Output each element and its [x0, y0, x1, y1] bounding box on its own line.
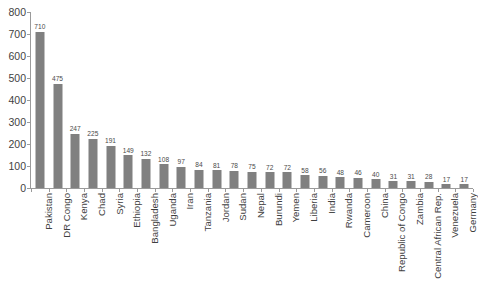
x-axis-tick-mark: [332, 189, 333, 192]
bar[interactable]: [283, 172, 292, 188]
x-axis-tick-mark: [243, 189, 244, 192]
bar-slot: 149: [119, 12, 137, 188]
x-axis-tick-mark: [455, 189, 456, 192]
x-axis-tick-mark: [31, 189, 32, 192]
y-axis-tick-mark: [27, 56, 30, 57]
bar-value-label: 31: [407, 173, 414, 180]
bar-value-label: 84: [195, 161, 202, 168]
x-axis-tick-mark: [49, 189, 50, 192]
x-axis-category-label: Bangladesh: [150, 193, 160, 244]
x-axis-category-label: China: [380, 193, 390, 218]
x-axis-tick-mark: [172, 189, 173, 192]
x-axis-tick-mark: [473, 189, 474, 192]
bar[interactable]: [177, 167, 186, 188]
y-axis-tick-mark: [27, 78, 30, 79]
y-axis-tick-label: 600: [0, 51, 26, 61]
bar-value-label: 191: [105, 137, 116, 144]
y-axis-tick-mark: [27, 34, 30, 35]
bar[interactable]: [265, 172, 274, 188]
bar[interactable]: [389, 181, 398, 188]
bar-value-label: 46: [354, 169, 361, 176]
x-axis-category-label: Burundi: [274, 193, 284, 226]
x-axis-tick-mark: [66, 189, 67, 192]
x-axis-category-label: Central African Rep.: [433, 193, 443, 279]
bar[interactable]: [247, 172, 256, 189]
bar-value-label: 710: [34, 23, 45, 30]
bar[interactable]: [124, 155, 133, 188]
bar-value-label: 225: [87, 130, 98, 137]
bar-value-label: 58: [301, 167, 308, 174]
bar-slot: 46: [349, 12, 367, 188]
bar[interactable]: [141, 159, 150, 188]
bar[interactable]: [371, 179, 380, 188]
x-axis-category-label: Pakistan: [44, 193, 54, 230]
x-axis-category-label: Republic of Congo: [397, 193, 407, 272]
bar-slot: 191: [102, 12, 120, 188]
bar-value-label: 48: [337, 169, 344, 176]
bar[interactable]: [318, 176, 327, 188]
bar[interactable]: [106, 146, 115, 188]
bar[interactable]: [53, 84, 62, 189]
bar[interactable]: [159, 164, 168, 188]
y-axis-tick-label: 700: [0, 29, 26, 39]
x-axis-category-label: Iran: [185, 193, 195, 210]
y-axis-tick-label: 200: [0, 139, 26, 149]
bar-slot: 132: [137, 12, 155, 188]
bar-value-label: 28: [425, 173, 432, 180]
y-axis-tick-label: 0: [0, 183, 26, 193]
x-axis-tick-mark: [102, 189, 103, 192]
x-axis-category-label: Ethiopia: [132, 193, 142, 228]
x-axis-category-label: Nepal: [256, 193, 266, 218]
bar[interactable]: [194, 170, 203, 188]
bar-slot: 710: [31, 12, 49, 188]
bar-value-label: 475: [52, 75, 63, 82]
bar-slot: 72: [279, 12, 297, 188]
x-axis-tick-labels: PakistanDR CongoKenyaChadSyriaEthiopiaBa…: [31, 193, 473, 305]
x-axis-category-label: Syria: [115, 193, 125, 215]
bar[interactable]: [71, 134, 80, 188]
bar-slot: 78: [225, 12, 243, 188]
x-axis-tick-mark: [225, 189, 226, 192]
bar-slot: 48: [332, 12, 350, 188]
bar-slot: 247: [66, 12, 84, 188]
bar-value-label: 81: [213, 162, 220, 169]
bar[interactable]: [354, 178, 363, 188]
x-axis-tick-mark: [119, 189, 120, 192]
y-axis-tick-label: 500: [0, 73, 26, 83]
bar-slot: 31: [402, 12, 420, 188]
x-axis-tick-mark: [420, 189, 421, 192]
bar-slot: 17: [455, 12, 473, 188]
x-axis-tick-mark: [296, 189, 297, 192]
x-axis-tick-mark: [190, 189, 191, 192]
bar[interactable]: [230, 171, 239, 188]
x-axis-tick-mark: [402, 189, 403, 192]
bar-value-label: 56: [319, 167, 326, 174]
bar-slot: 58: [296, 12, 314, 188]
bar-value-label: 97: [178, 158, 185, 165]
x-axis-category-label: Liberia: [309, 193, 319, 222]
x-axis-tick-mark: [349, 189, 350, 192]
bar[interactable]: [35, 32, 44, 188]
y-axis-tick-mark: [27, 144, 30, 145]
x-axis-category-label: Sudan: [238, 193, 248, 221]
y-axis-tick-mark: [27, 122, 30, 123]
bar[interactable]: [88, 139, 97, 189]
bar-value-label: 149: [123, 147, 134, 154]
x-axis-tick-mark: [261, 189, 262, 192]
x-axis-tick-mark: [137, 189, 138, 192]
bar-value-label: 40: [372, 171, 379, 178]
bar[interactable]: [407, 181, 416, 188]
x-axis-category-label: Kenya: [79, 193, 89, 220]
bar-value-label: 78: [231, 162, 238, 169]
x-axis-line: [30, 188, 473, 189]
bar-slot: 28: [420, 12, 438, 188]
bar-value-label: 75: [248, 163, 255, 170]
bar[interactable]: [336, 177, 345, 188]
bar-value-label: 132: [140, 150, 151, 157]
bar[interactable]: [301, 175, 310, 188]
bar-slot: 72: [261, 12, 279, 188]
bar-slot: 225: [84, 12, 102, 188]
bar-slot: 17: [438, 12, 456, 188]
bar[interactable]: [212, 170, 221, 188]
